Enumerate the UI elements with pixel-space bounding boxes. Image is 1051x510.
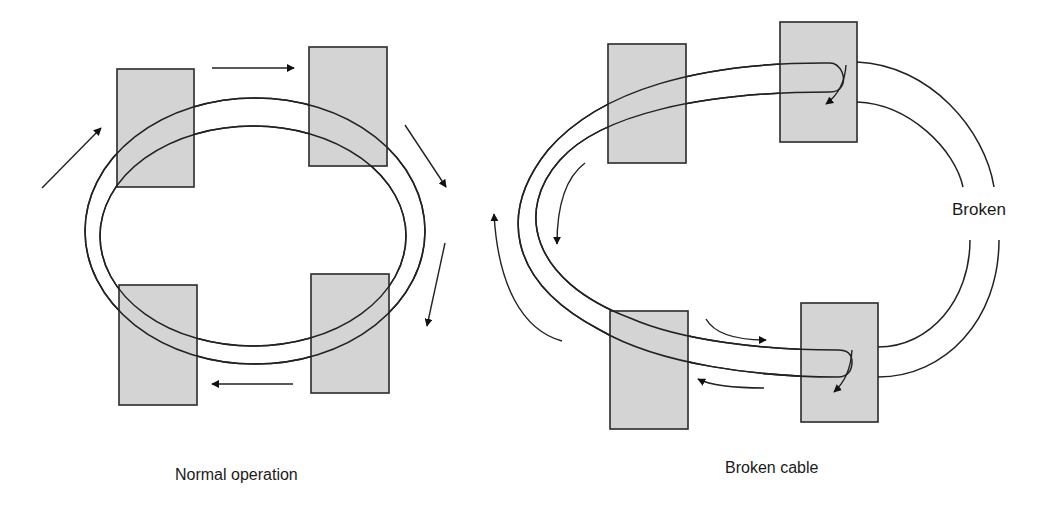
node-top-left xyxy=(608,44,686,163)
normal-operation-diagram xyxy=(42,47,446,405)
node-bottom-left xyxy=(610,311,688,429)
broken-label: Broken xyxy=(952,200,1006,220)
flow-arrow-icon xyxy=(698,379,764,388)
caption-normal-operation: Normal operation xyxy=(175,466,298,484)
broken-inner-top-segment xyxy=(857,102,963,187)
broken-outer-bottom-segment xyxy=(878,240,999,377)
flow-arrow-icon xyxy=(427,243,445,326)
flow-arrow-icon xyxy=(706,319,766,340)
ring-topology-figure xyxy=(0,0,1051,510)
caption-broken-cable: Broken cable xyxy=(725,459,818,477)
flow-arrow-icon xyxy=(557,163,585,244)
flow-arrow-icon xyxy=(494,214,562,341)
node-bottom-right xyxy=(801,303,878,422)
broken-cable-diagram xyxy=(494,22,999,429)
flow-arrow-icon xyxy=(42,128,101,188)
broken-outer-top-segment xyxy=(857,62,994,187)
node-top-left xyxy=(117,69,194,187)
node-top-right xyxy=(309,47,387,166)
node-top-right xyxy=(780,22,857,142)
broken-inner-bottom-segment xyxy=(878,240,970,347)
